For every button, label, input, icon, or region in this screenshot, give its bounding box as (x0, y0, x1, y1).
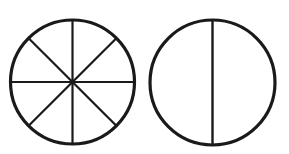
figure-canvas (0, 0, 289, 154)
circle-eighths (11, 20, 135, 144)
fraction-circles-figure (0, 0, 289, 154)
circle-halves (150, 20, 275, 145)
